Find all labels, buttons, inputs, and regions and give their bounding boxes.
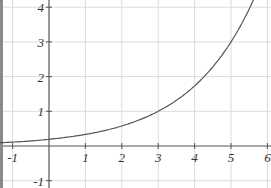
- x-tick-label: 2: [119, 150, 126, 165]
- x-tick-label: 1: [82, 150, 89, 165]
- x-tick-label: 3: [154, 150, 162, 165]
- y-tick-label: 1: [38, 104, 45, 119]
- y-tick-label: -1: [33, 174, 44, 188]
- exponential-graph: -11234564321-1: [0, 0, 271, 188]
- y-tick-label: 3: [37, 35, 45, 50]
- y-tick-label: 2: [38, 70, 45, 85]
- x-tick-label: 5: [228, 150, 235, 165]
- x-tick-label: 6: [264, 150, 271, 165]
- x-tick-label: 4: [191, 150, 198, 165]
- x-tick-label: -1: [7, 150, 18, 165]
- y-tick-label: 4: [38, 0, 45, 15]
- chart-frame: -11234564321-1: [0, 0, 271, 188]
